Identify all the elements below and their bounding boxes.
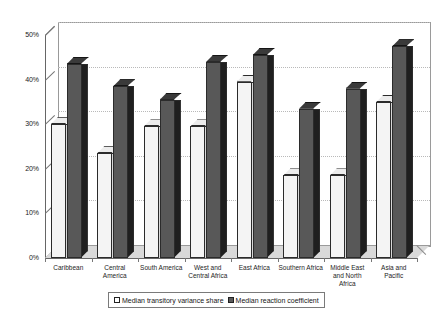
bar-4-series-1 bbox=[253, 48, 275, 258]
x-axis-tick-1 bbox=[92, 258, 93, 262]
x-axis-tick-7 bbox=[371, 258, 372, 262]
y-axis-label-30%: 30% bbox=[13, 120, 39, 127]
bar-6-series-1 bbox=[346, 82, 368, 258]
x-axis-category-label-7: Asia andPacific bbox=[371, 264, 418, 280]
bar-side bbox=[174, 100, 181, 258]
bar-top bbox=[67, 57, 89, 64]
x-axis-tick-edge-0 bbox=[45, 258, 46, 262]
y-axis-label-10%: 10% bbox=[13, 209, 39, 216]
bar-side bbox=[127, 86, 134, 258]
bar-top bbox=[392, 39, 414, 46]
bar-face bbox=[51, 124, 66, 258]
x-axis-tick-2 bbox=[138, 258, 139, 262]
x-axis-category-label-0: Caribbean bbox=[45, 264, 92, 272]
bar-face bbox=[283, 175, 298, 258]
bar-side bbox=[360, 89, 367, 258]
bar-face bbox=[376, 102, 391, 258]
legend-item-median-transitory-variance-share: Median transitory variance share bbox=[114, 297, 224, 304]
bar-face bbox=[237, 82, 252, 258]
bar-chart: 0%10%20%30%40%50% CaribbeanCentralAmeric… bbox=[0, 0, 439, 313]
y-axis-label-20%: 20% bbox=[13, 165, 39, 172]
category-label-line: Central bbox=[92, 264, 139, 272]
x-axis-category-label-2: South America bbox=[138, 264, 185, 272]
bar-top bbox=[253, 48, 275, 55]
category-label-line: Southern Africa bbox=[278, 264, 325, 272]
category-label-line: Pacific bbox=[371, 272, 418, 280]
x-axis-tick-6 bbox=[324, 258, 325, 262]
legend-item-median-reaction-coefficient: Median reaction coefficient bbox=[228, 297, 319, 304]
x-axis-category-label-1: CentralAmerica bbox=[92, 264, 139, 280]
gridline-50% bbox=[58, 22, 430, 23]
bar-0-series-1 bbox=[67, 57, 89, 258]
category-label-line: East Africa bbox=[231, 264, 278, 272]
category-label-line: Middle East bbox=[324, 264, 371, 272]
gridline-40% bbox=[58, 67, 430, 68]
bar-1-series-1 bbox=[113, 79, 135, 258]
x-axis-tick-4 bbox=[231, 258, 232, 262]
bar-5-series-1 bbox=[299, 102, 321, 258]
chart-legend: Median transitory variance share Median … bbox=[108, 292, 325, 308]
bar-face bbox=[206, 62, 221, 258]
category-label-line: and North bbox=[324, 272, 371, 280]
bar-side bbox=[220, 62, 227, 258]
x-axis-category-label-4: East Africa bbox=[231, 264, 278, 272]
x-axis-category-label-3: West andCentral Africa bbox=[185, 264, 232, 280]
y-axis-line bbox=[45, 35, 46, 258]
category-label-line: Central Africa bbox=[185, 272, 232, 280]
bar-7-series-1 bbox=[392, 39, 414, 258]
y-axis-label-0%: 0% bbox=[13, 254, 39, 261]
plot-right-edge bbox=[430, 22, 431, 245]
bar-face bbox=[330, 175, 345, 258]
category-label-line: Asia and bbox=[371, 264, 418, 272]
x-axis-tick-3 bbox=[185, 258, 186, 262]
category-label-line: Africa bbox=[324, 280, 371, 288]
bar-side bbox=[81, 64, 88, 258]
bar-3-series-1 bbox=[206, 55, 228, 258]
legend-swatch-icon-dark bbox=[228, 297, 234, 303]
bar-top bbox=[206, 55, 228, 62]
bar-face bbox=[299, 109, 314, 258]
legend-swatch-icon-light bbox=[114, 297, 120, 303]
legend-label-1: Median reaction coefficient bbox=[236, 297, 319, 304]
legend-label-0: Median transitory variance share bbox=[122, 297, 224, 304]
bar-top bbox=[346, 82, 368, 89]
category-label-line: Caribbean bbox=[45, 264, 92, 272]
bar-face bbox=[97, 153, 112, 258]
bar-side bbox=[267, 55, 274, 258]
bar-face bbox=[190, 126, 205, 258]
bar-2-series-1 bbox=[160, 93, 182, 258]
category-label-line: America bbox=[92, 272, 139, 280]
x-axis-category-label-5: Southern Africa bbox=[278, 264, 325, 272]
bar-face bbox=[253, 55, 268, 258]
bar-top bbox=[299, 102, 321, 109]
x-axis-tick-5 bbox=[278, 258, 279, 262]
bar-face bbox=[144, 126, 159, 258]
bar-face bbox=[113, 86, 128, 258]
category-label-line: West and bbox=[185, 264, 232, 272]
bar-top bbox=[113, 79, 135, 86]
bar-face bbox=[67, 64, 82, 258]
y-axis-label-50%: 50% bbox=[13, 31, 39, 38]
bar-face bbox=[160, 100, 175, 258]
y-axis-label-40%: 40% bbox=[13, 76, 39, 83]
bar-face bbox=[392, 46, 407, 258]
x-axis-tick-edge-1 bbox=[417, 258, 418, 262]
x-axis-category-label-6: Middle Eastand NorthAfrica bbox=[324, 264, 371, 288]
bar-side bbox=[406, 46, 413, 258]
category-label-line: South America bbox=[138, 264, 185, 272]
bar-top bbox=[160, 93, 182, 100]
bar-side bbox=[313, 109, 320, 258]
bar-face bbox=[346, 89, 361, 258]
